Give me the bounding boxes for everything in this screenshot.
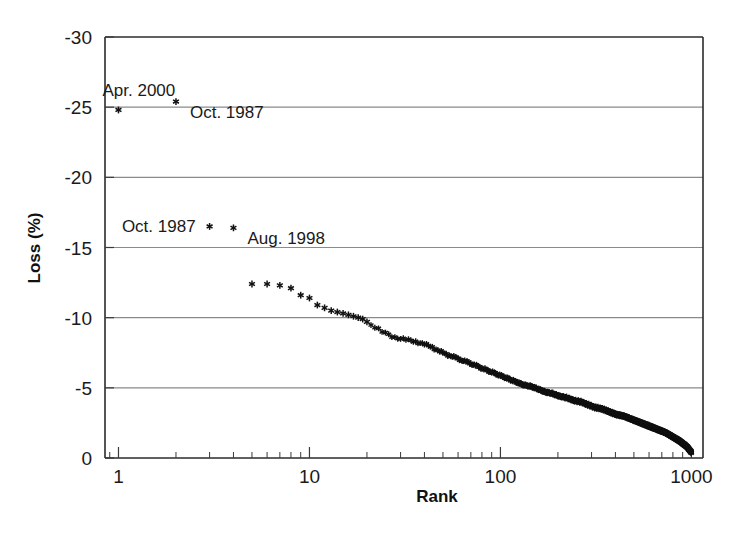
annotation-oct-1987-b: Oct. 1987 <box>122 217 196 236</box>
x-tick-label-100: 100 <box>485 466 517 487</box>
annotation-aug-1998: Aug. 1998 <box>247 229 325 248</box>
gridline-group <box>105 107 703 388</box>
y-tick-label--20: -20 <box>65 167 92 188</box>
loss-rank-chart: 1101001000 -30-25-20-15-10-50 Apr. 2000O… <box>0 0 754 542</box>
data-point <box>322 304 328 311</box>
data-point <box>334 309 340 316</box>
data-point <box>288 285 294 292</box>
y-tick-label--10: -10 <box>65 308 92 329</box>
x-tick-label-10: 10 <box>299 466 320 487</box>
data-point <box>249 281 255 288</box>
y-tick-label--15: -15 <box>65 238 92 259</box>
x-axis-tick-labels: 1101001000 <box>113 466 712 487</box>
data-point <box>328 307 334 314</box>
data-point <box>307 295 313 302</box>
y-axis-tick-labels: -30-25-20-15-10-50 <box>65 27 92 469</box>
data-point <box>298 292 304 299</box>
data-point <box>277 282 283 289</box>
y-tick-label--5: -5 <box>75 378 92 399</box>
x-tick-label-1000: 1000 <box>670 466 712 487</box>
y-axis-ticks <box>105 37 114 458</box>
data-point <box>314 302 320 309</box>
x-tick-label-1: 1 <box>113 466 124 487</box>
y-tick-label--25: -25 <box>65 97 92 118</box>
y-tick-label--30: -30 <box>65 27 92 48</box>
annotation-oct-1987-a: Oct. 1987 <box>190 103 264 122</box>
y-tick-label-0: 0 <box>81 448 92 469</box>
chart-canvas: 1101001000 -30-25-20-15-10-50 Apr. 2000O… <box>0 0 754 542</box>
data-point-group <box>116 98 694 456</box>
data-point <box>340 310 346 317</box>
data-point <box>264 281 270 288</box>
y-axis-title: Loss (%) <box>25 213 44 284</box>
data-point <box>231 224 237 231</box>
annotation-apr-2000: Apr. 2000 <box>102 81 175 100</box>
x-axis-title: Rank <box>416 487 458 506</box>
annotation-group: Apr. 2000Oct. 1987Oct. 1987Aug. 1998 <box>102 81 324 248</box>
x-axis-ticks <box>110 447 692 458</box>
data-point <box>207 223 213 230</box>
